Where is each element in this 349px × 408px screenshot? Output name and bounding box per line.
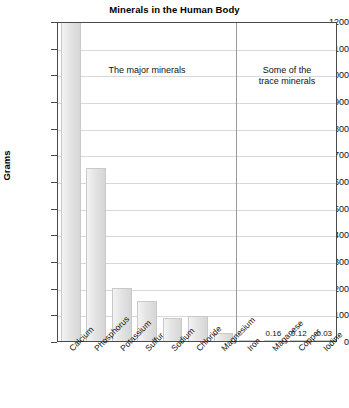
gridline (58, 130, 336, 131)
chart-title: Minerals in the Human Body (0, 4, 349, 15)
bar (86, 168, 106, 341)
bar-chart: Minerals in the Human Body Grams 0100200… (0, 0, 349, 408)
gridline (58, 50, 336, 51)
gridline (58, 103, 336, 104)
y-tick-mark (51, 342, 57, 343)
plot-annotation: Some of the trace minerals (236, 65, 337, 87)
y-axis-title: Grams (1, 136, 12, 196)
gridline (58, 156, 336, 157)
plot-area: The major mineralsSome of the trace mine… (57, 22, 337, 342)
plot-annotation: The major minerals (58, 65, 236, 76)
bar (61, 22, 81, 341)
